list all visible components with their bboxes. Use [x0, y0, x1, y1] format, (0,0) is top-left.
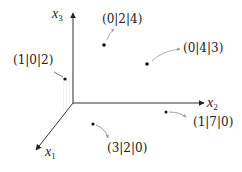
leader-line-0-4-3	[152, 49, 180, 61]
point-dot-3-2-0	[91, 122, 94, 125]
leader-line-0-2-4	[107, 29, 114, 40]
x3-axis-label: x3	[52, 7, 63, 23]
x2-axis-label: x2	[207, 96, 218, 112]
point-label-1-7-0: (1|7|0)	[193, 116, 233, 128]
point-dot-1-0-2	[63, 77, 66, 80]
point-dot-1-7-0	[165, 111, 168, 114]
x1-axis-label: x1	[45, 145, 56, 161]
point-label-0-4-3: (0|4|3)	[183, 42, 223, 54]
point-label-1-0-2: (1|0|2)	[13, 54, 53, 66]
point-label-3-2-0: (3|2|0)	[107, 142, 147, 154]
x1-axis	[36, 103, 73, 150]
leader-line-1-7-0	[169, 112, 186, 117]
projection-shade	[62, 72, 73, 112]
leader-line-1-0-2	[54, 72, 63, 77]
point-dot-0-4-3	[145, 62, 149, 66]
x1-axis-label-sub: 1	[51, 151, 56, 161]
point-label-0-2-4: (0|2|4)	[102, 13, 142, 25]
x3-axis-label-sub: 3	[58, 13, 63, 23]
x2-axis-label-sub: 2	[213, 102, 218, 112]
point-dot-0-2-4	[102, 43, 106, 47]
leader-line-3-2-0	[96, 125, 108, 138]
